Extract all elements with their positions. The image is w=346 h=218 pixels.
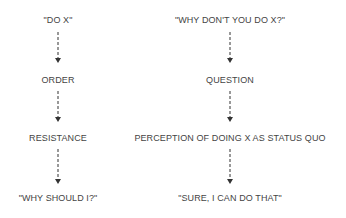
- right-node-question: QUESTION: [206, 75, 254, 85]
- left-node-why-should-i: "WHY SHOULD I?": [19, 193, 98, 203]
- right-node-why-dont-you: "WHY DON'T YOU DO X?": [175, 15, 285, 25]
- dashed-down-arrow-icon: [227, 149, 233, 185]
- dashed-down-arrow-icon: [227, 91, 233, 123]
- dashed-down-arrow-icon: [55, 149, 61, 185]
- right-node-perception: PERCEPTION OF DOING X AS STATUS QUO: [134, 133, 325, 143]
- dashed-down-arrow-icon: [227, 32, 233, 64]
- right-node-sure: "SURE, I CAN DO THAT": [178, 193, 282, 203]
- left-node-do-x: "DO X": [44, 15, 73, 25]
- dashed-down-arrow-icon: [55, 32, 61, 64]
- dashed-down-arrow-icon: [55, 91, 61, 123]
- left-node-resistance: RESISTANCE: [29, 133, 87, 143]
- left-node-order: ORDER: [41, 75, 74, 85]
